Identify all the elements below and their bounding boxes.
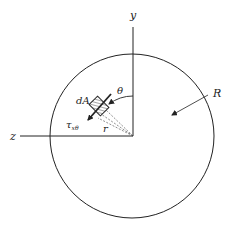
area-element-label: dA — [76, 95, 90, 106]
circular-shaft-cross-section-diagram: y z θ dA τxθ r R — [0, 0, 233, 231]
outer-radius-label: R — [212, 87, 221, 100]
theta-label: θ — [117, 85, 123, 96]
outer-radius-arrow — [172, 95, 208, 115]
shear-stress-subscript: xθ — [72, 124, 79, 131]
z-axis-label: z — [9, 130, 16, 143]
shear-stress-label: τxθ — [66, 119, 79, 131]
theta-arc — [109, 96, 133, 104]
y-axis-label: y — [129, 9, 137, 22]
radius-label: r — [103, 123, 109, 134]
